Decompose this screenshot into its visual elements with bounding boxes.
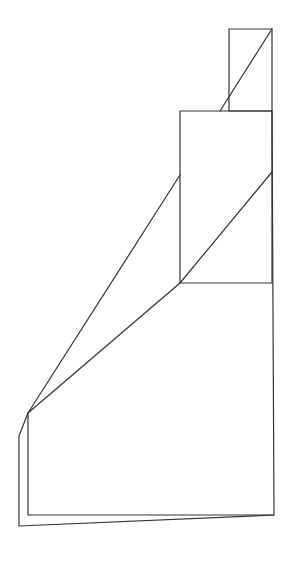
outer-slant-line (28, 175, 180, 413)
inner-slant-line (28, 172, 272, 413)
diagram-shapes (19, 29, 274, 526)
diagram-svg (0, 0, 291, 564)
back-face (19, 413, 274, 526)
middle-rect (180, 111, 272, 283)
top-diagonal (220, 29, 272, 111)
line-drawing-canvas (0, 0, 291, 564)
front-face (28, 111, 274, 515)
top-small-rect (229, 29, 272, 111)
